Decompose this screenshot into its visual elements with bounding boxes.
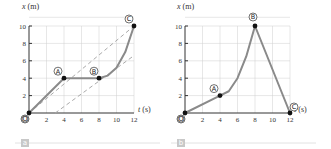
point-B — [253, 24, 258, 29]
y-tick-label: 6 — [179, 57, 183, 65]
point-A — [218, 93, 223, 98]
point-A — [62, 76, 67, 81]
x-tick-label: 6 — [236, 116, 240, 124]
point-label-text: B — [92, 68, 96, 76]
x-axis-label: t (s) — [138, 105, 151, 114]
y-tick-label: 6 — [23, 57, 27, 65]
y-axis-label: x (m) — [21, 2, 39, 11]
x-tick-label: 6 — [80, 116, 84, 124]
point-label-C: C — [290, 103, 298, 111]
point-label-A: A — [210, 85, 218, 93]
y-tick-label: 2 — [23, 92, 27, 100]
y-tick-label: 10 — [19, 23, 27, 31]
x-tick-label: 10 — [113, 116, 121, 124]
point-label-text: B — [251, 13, 255, 21]
point-label-text: A — [56, 68, 61, 76]
x-tick-label: 2 — [45, 116, 49, 124]
y-tick-label: 2 — [179, 92, 183, 100]
point-label-text: A — [212, 85, 217, 93]
point-label-text: C — [292, 103, 297, 111]
y-tick-label: 8 — [179, 40, 183, 48]
panel-badge-label: b — [179, 139, 184, 147]
x-tick-label: 4 — [62, 116, 66, 124]
point-label-O: O — [21, 115, 29, 123]
panel-b: 24681024681012x (m)t (s)OABCb — [171, 2, 316, 147]
point-label-A: A — [54, 67, 62, 75]
x-tick-label: 10 — [269, 116, 277, 124]
point-label-B: B — [90, 67, 98, 75]
figure: 24681024681012x (m)t (s)OABCa24681024681… — [0, 0, 331, 149]
x-tick-label: 2 — [201, 116, 205, 124]
panel-badge-label: a — [23, 139, 27, 147]
point-label-text: O — [22, 115, 27, 123]
point-label-C: C — [125, 15, 133, 23]
point-B — [97, 76, 102, 81]
x-tick-label: 4 — [218, 116, 222, 124]
x-tick-label: 12 — [131, 116, 139, 124]
point-label-text: O — [178, 115, 183, 123]
point-C — [288, 111, 293, 116]
y-tick-label: 10 — [175, 23, 183, 31]
y-tick-label: 4 — [179, 75, 183, 83]
y-tick-label: 4 — [23, 75, 27, 83]
dashed-line-tangent-lower — [55, 56, 134, 113]
point-C — [132, 24, 137, 29]
x-tick-label: 8 — [253, 116, 257, 124]
panel-a: 24681024681012x (m)t (s)OABCa — [15, 2, 160, 147]
point-label-text: C — [127, 15, 132, 23]
y-tick-label: 8 — [23, 40, 27, 48]
point-label-O: O — [177, 115, 185, 123]
point-label-B: B — [249, 13, 257, 21]
x-tick-label: 8 — [97, 116, 101, 124]
y-axis-label: x (m) — [176, 2, 194, 11]
x-tick-label: 12 — [287, 116, 295, 124]
